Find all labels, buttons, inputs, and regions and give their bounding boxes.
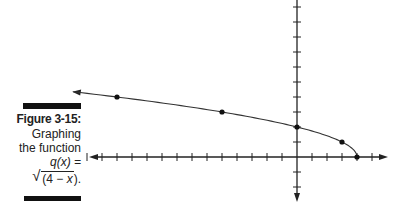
data-point [294,124,299,129]
function-curve [73,92,357,157]
x-axis-right-arrow-icon [379,154,388,160]
y-axis-down-arrow-icon [294,193,300,202]
axis-arrows [72,90,388,202]
data-point [339,139,344,144]
data-point [354,154,359,159]
x-axis-left-arrow-icon [89,154,98,160]
data-point [219,109,224,114]
axis-ticks [87,7,372,187]
function-graph [0,0,400,208]
data-point [114,94,119,99]
data-points [114,94,359,159]
